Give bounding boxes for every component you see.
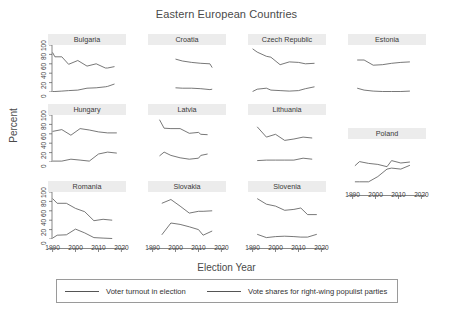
panel-slovakia: Slovakia — [148, 181, 226, 239]
series-line-turnout — [257, 199, 317, 215]
chart-title: Eastern European Countries — [0, 8, 453, 20]
y-tick-label: 0 — [40, 164, 47, 168]
y-tick-label: 20 — [40, 228, 47, 235]
panel-croatia: Croatia — [148, 34, 226, 92]
y-tick-label: 40 — [40, 72, 47, 79]
series-line-populist — [162, 223, 212, 235]
y-tick-label: 80 — [40, 200, 47, 207]
panel-plot — [48, 192, 126, 239]
y-axis — [47, 115, 53, 166]
x-tick-label: 2020 — [311, 244, 331, 251]
chart-legend: Voter turnout in election Vote shares fo… — [56, 279, 398, 303]
series-line-turnout — [253, 49, 315, 65]
y-tick-label: 80 — [40, 123, 47, 130]
series-line-populist — [53, 229, 113, 238]
chart-figure: Eastern European Countries Percent Elect… — [0, 0, 453, 322]
legend-line-icon — [207, 291, 241, 292]
x-tick-label: 2010 — [188, 244, 208, 251]
panel-title: Czech Republic — [248, 34, 326, 45]
series-line-populist — [53, 84, 115, 92]
x-tick-label: 2000 — [266, 244, 286, 251]
legend-line-icon — [65, 291, 99, 292]
panel-poland: Poland — [348, 128, 426, 186]
series-line-turnout — [257, 127, 312, 141]
panel-title: Slovenia — [248, 181, 326, 192]
y-axis — [47, 192, 53, 243]
x-tick-label: 2010 — [88, 244, 108, 251]
y-tick-label: 100 — [40, 40, 47, 51]
panel-lithuania: Lithuania — [248, 104, 326, 162]
x-tick-label: 2000 — [166, 244, 186, 251]
panel-plot — [348, 45, 426, 92]
panel-bulgaria: Bulgaria — [48, 34, 126, 92]
panel-title: Lithuania — [248, 104, 326, 115]
series-line-populist — [355, 165, 410, 182]
panel-plot — [348, 139, 426, 186]
series-line-turnout — [176, 59, 213, 68]
series-line-populist — [257, 158, 312, 160]
panel-plot — [148, 45, 226, 92]
panel-title: Slovakia — [148, 181, 226, 192]
series-line-populist — [176, 88, 213, 90]
panel-plot — [48, 45, 126, 92]
legend-item-turnout: Voter turnout in election — [65, 280, 186, 302]
panel-title: Latvia — [148, 104, 226, 115]
y-tick-label: 20 — [40, 81, 47, 88]
y-tick-label: 80 — [40, 53, 47, 60]
y-tick-label: 0 — [40, 94, 47, 98]
series-line-populist — [160, 152, 208, 159]
legend-label-turnout: Voter turnout in election — [106, 287, 186, 296]
y-tick-label: 100 — [40, 187, 47, 198]
panel-title: Hungary — [48, 104, 126, 115]
series-line-turnout — [357, 60, 410, 65]
legend-item-populist: Vote shares for right-wing populist part… — [207, 280, 387, 302]
panel-plot — [248, 45, 326, 92]
x-tick-label: 2010 — [288, 244, 308, 251]
x-tick-label: 2000 — [66, 244, 86, 251]
x-tick-label: 2020 — [211, 244, 231, 251]
panel-latvia: Latvia — [148, 104, 226, 162]
x-tick-label: 1990 — [43, 244, 63, 251]
y-tick-label: 20 — [40, 151, 47, 158]
series-line-turnout — [53, 199, 113, 221]
panel-plot — [48, 115, 126, 162]
x-tick-label: 1990 — [243, 244, 263, 251]
panel-plot — [248, 115, 326, 162]
series-line-turnout — [160, 120, 208, 135]
y-tick-label: 100 — [40, 110, 47, 121]
y-tick-label: 60 — [40, 133, 47, 140]
legend-label-populist: Vote shares for right-wing populist part… — [248, 287, 387, 296]
panel-title: Romania — [48, 181, 126, 192]
series-line-populist — [253, 87, 315, 92]
series-line-turnout — [162, 200, 212, 214]
series-line-turnout — [355, 161, 410, 167]
y-tick-label: 40 — [40, 142, 47, 149]
y-tick-label: 40 — [40, 219, 47, 226]
series-line-populist — [357, 88, 410, 91]
panel-title: Estonia — [348, 34, 426, 45]
panel-hungary: Hungary — [48, 104, 126, 162]
panel-title: Poland — [348, 128, 426, 139]
x-axis-label: Election Year — [0, 262, 453, 273]
series-line-populist — [53, 152, 117, 161]
y-axis-label: Percent — [8, 91, 19, 161]
series-line-populist — [257, 234, 317, 237]
x-tick-label: 1990 — [143, 244, 163, 251]
panel-plot — [248, 192, 326, 239]
x-tick-label: 2000 — [366, 191, 386, 198]
x-tick-label: 2020 — [411, 191, 431, 198]
panel-estonia: Estonia — [348, 34, 426, 92]
panel-czech-republic: Czech Republic — [248, 34, 326, 92]
x-tick-label: 2010 — [388, 191, 408, 198]
y-axis — [47, 45, 53, 96]
panel-plot — [148, 192, 226, 239]
x-tick-label: 1990 — [343, 191, 363, 198]
panel-romania: Romania — [48, 181, 126, 239]
series-line-turnout — [53, 53, 115, 69]
panel-slovenia: Slovenia — [248, 181, 326, 239]
panel-title: Bulgaria — [48, 34, 126, 45]
panel-plot — [148, 115, 226, 162]
y-tick-label: 60 — [40, 63, 47, 70]
panel-title: Croatia — [148, 34, 226, 45]
x-tick-label: 2020 — [111, 244, 131, 251]
